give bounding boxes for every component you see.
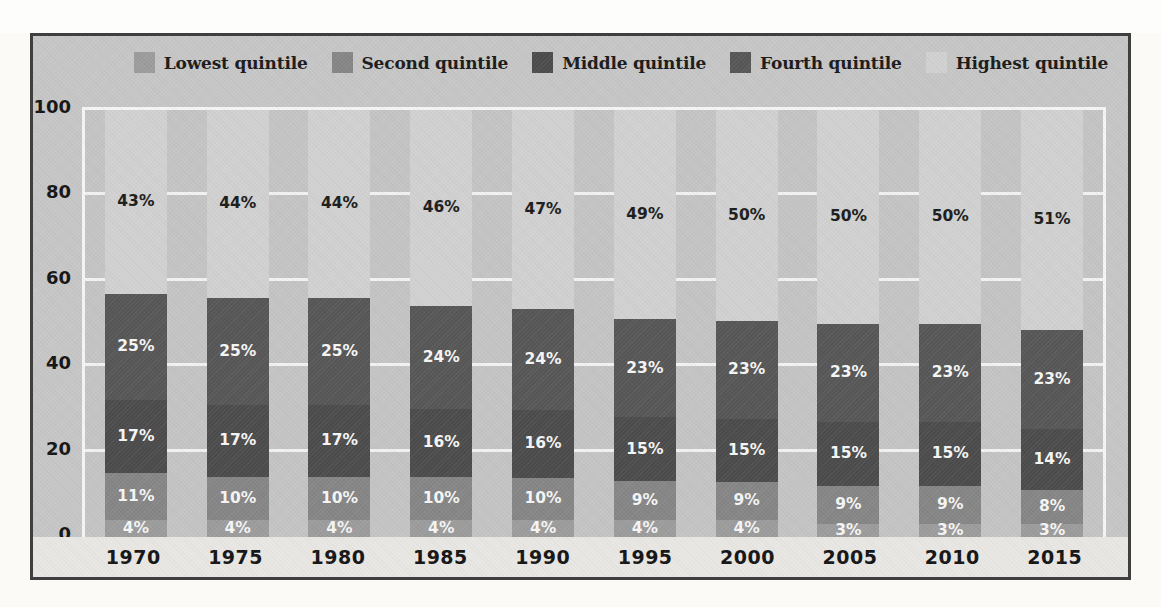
- bar-segment-highest-quintile-1975: 44%: [207, 110, 269, 298]
- legend-swatch-middle-quintile: [532, 52, 553, 73]
- bar-segment-middle-quintile-1995: 15%: [614, 417, 676, 481]
- bar-segment-fourth-quintile-1975: 25%: [207, 298, 269, 405]
- segment-value-label: 23%: [626, 361, 663, 377]
- segment-value-label: 24%: [525, 352, 562, 368]
- segment-value-label: 3%: [835, 523, 861, 539]
- segment-value-label: 50%: [830, 209, 867, 225]
- bar-segment-fourth-quintile-1995: 23%: [614, 319, 676, 417]
- bar-segment-highest-quintile-2000: 50%: [716, 110, 778, 321]
- bar-segment-second-quintile-2015: 8%: [1021, 490, 1083, 525]
- segment-value-label: 15%: [728, 443, 765, 459]
- bar-segment-second-quintile-2000: 9%: [716, 482, 778, 520]
- x-tick-label-1975: 1975: [185, 546, 287, 568]
- bar-segment-second-quintile-1970: 11%: [105, 473, 167, 520]
- segment-value-label: 46%: [423, 200, 460, 216]
- x-tick-label-1985: 1985: [389, 546, 491, 568]
- segment-value-label: 49%: [626, 207, 663, 223]
- bar-segment-second-quintile-1990: 10%: [512, 478, 574, 520]
- y-axis: 020406080100: [33, 36, 77, 577]
- segment-value-label: 16%: [525, 436, 562, 452]
- bar-1975: 4%10%17%25%44%: [207, 110, 269, 537]
- bar-segment-highest-quintile-1980: 44%: [308, 110, 370, 298]
- bar-1985: 4%10%16%24%46%: [410, 110, 472, 537]
- x-tick-label-2015: 2015: [1004, 546, 1106, 568]
- bar-segment-second-quintile-1995: 9%: [614, 481, 676, 519]
- y-tick-label-40: 40: [33, 352, 71, 374]
- segment-value-label: 15%: [830, 446, 867, 462]
- segment-value-label: 9%: [632, 493, 658, 509]
- legend-swatch-fourth-quintile: [730, 52, 751, 73]
- segment-value-label: 43%: [117, 194, 154, 210]
- bar-segment-highest-quintile-1985: 46%: [410, 110, 472, 306]
- bar-segment-fourth-quintile-1980: 25%: [308, 298, 370, 405]
- segment-value-label: 15%: [932, 446, 969, 462]
- segment-value-label: 4%: [734, 521, 760, 537]
- segment-value-label: 10%: [423, 491, 460, 507]
- bar-segment-highest-quintile-2005: 50%: [817, 110, 879, 324]
- segment-value-label: 16%: [423, 435, 460, 451]
- bar-1980: 4%10%17%25%44%: [308, 110, 370, 537]
- legend-item-second-quintile: Second quintile: [332, 52, 509, 73]
- page-top-margin: [0, 0, 1161, 33]
- segment-value-label: 24%: [423, 350, 460, 366]
- y-tick-label-100: 100: [33, 96, 71, 118]
- bar-segment-highest-quintile-2010: 50%: [919, 110, 981, 324]
- bar-segment-middle-quintile-1975: 17%: [207, 405, 269, 478]
- legend-item-highest-quintile: Highest quintile: [926, 52, 1108, 73]
- x-axis-strip: 1970197519801985199019952000200520102015: [33, 537, 1128, 577]
- bar-segment-middle-quintile-1990: 16%: [512, 410, 574, 478]
- bar-segment-fourth-quintile-1990: 24%: [512, 309, 574, 410]
- x-tick-label-1980: 1980: [287, 546, 389, 568]
- segment-value-label: 3%: [1039, 523, 1065, 539]
- bar-2000: 4%9%15%23%50%: [716, 110, 778, 537]
- segment-value-label: 50%: [728, 208, 765, 224]
- segment-value-label: 4%: [428, 521, 454, 537]
- segment-value-label: 10%: [321, 491, 358, 507]
- segment-value-label: 50%: [932, 209, 969, 225]
- segment-value-label: 25%: [219, 344, 256, 360]
- bar-segment-lowest-quintile-1995: 4%: [614, 520, 676, 537]
- x-tick-label-1970: 1970: [82, 546, 184, 568]
- x-tick-label-2000: 2000: [697, 546, 799, 568]
- bar-segment-highest-quintile-1995: 49%: [614, 110, 676, 319]
- legend-item-fourth-quintile: Fourth quintile: [730, 52, 902, 73]
- bar-1970: 4%11%17%25%43%: [105, 110, 167, 537]
- segment-value-label: 25%: [321, 344, 358, 360]
- legend-swatch-highest-quintile: [926, 52, 947, 73]
- segment-value-label: 4%: [225, 521, 251, 537]
- segment-value-label: 4%: [632, 521, 658, 537]
- bar-segment-middle-quintile-2005: 15%: [817, 422, 879, 486]
- segment-value-label: 4%: [123, 521, 149, 537]
- segment-value-label: 14%: [1034, 452, 1071, 468]
- bar-segment-middle-quintile-2000: 15%: [716, 419, 778, 482]
- bar-segment-second-quintile-2010: 9%: [919, 486, 981, 524]
- legend-item-middle-quintile: Middle quintile: [532, 52, 706, 73]
- segment-value-label: 9%: [734, 493, 760, 509]
- legend-swatch-second-quintile: [332, 52, 353, 73]
- x-axis-labels: 1970197519801985199019952000200520102015: [82, 537, 1106, 577]
- figure-box: Lowest quintileSecond quintileMiddle qui…: [30, 33, 1131, 580]
- plot-area: 4%11%17%25%43%4%10%17%25%44%4%10%17%25%4…: [82, 107, 1106, 540]
- legend-label: Second quintile: [362, 53, 509, 73]
- segment-value-label: 17%: [117, 429, 154, 445]
- legend-label: Highest quintile: [956, 53, 1108, 73]
- segment-value-label: 25%: [117, 339, 154, 355]
- segment-value-label: 10%: [219, 491, 256, 507]
- y-tick-label-20: 20: [33, 438, 71, 460]
- bar-segment-second-quintile-2005: 9%: [817, 486, 879, 524]
- segment-value-label: 15%: [626, 442, 663, 458]
- bar-2005: 3%9%15%23%50%: [817, 110, 879, 537]
- chart-legend: Lowest quintileSecond quintileMiddle qui…: [33, 52, 1122, 73]
- x-tick-label-2010: 2010: [901, 546, 1003, 568]
- segment-value-label: 44%: [219, 196, 256, 212]
- segment-value-label: 4%: [530, 521, 556, 537]
- bar-segment-lowest-quintile-2015: 3%: [1021, 524, 1083, 537]
- bar-segment-middle-quintile-1980: 17%: [308, 405, 370, 478]
- bar-segment-lowest-quintile-1985: 4%: [410, 520, 472, 537]
- bar-segment-highest-quintile-2015: 51%: [1021, 110, 1083, 330]
- segment-value-label: 9%: [835, 497, 861, 513]
- bar-segment-fourth-quintile-2010: 23%: [919, 324, 981, 422]
- bar-segment-lowest-quintile-1980: 4%: [308, 520, 370, 537]
- x-tick-label-1995: 1995: [594, 546, 696, 568]
- legend-label: Fourth quintile: [760, 53, 902, 73]
